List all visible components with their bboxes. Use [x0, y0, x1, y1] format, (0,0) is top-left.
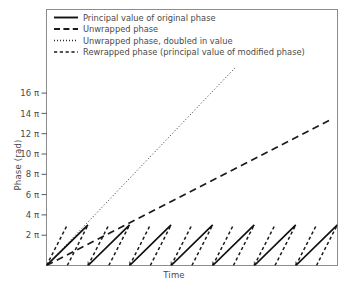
phase-unwrapping-chart: 16 π 14 π 12 π 10 π 8 π 6 π 4 π 2 π: [0, 0, 348, 288]
legend-label-unwrapped: Unwrapped phase: [83, 24, 158, 34]
ytick-label: 8 π: [26, 169, 39, 179]
ytick-label: 10 π: [20, 149, 39, 159]
legend-label-principal-value: Principal value of original phase: [83, 13, 216, 23]
chart-legend: Principal value of original phase Unwrap…: [54, 13, 305, 58]
series-principal-value: [47, 225, 338, 266]
y-axis-ticks: [42, 93, 47, 235]
ytick-label: 14 π: [20, 109, 39, 119]
ytick-label: 6 π: [26, 190, 39, 200]
ytick-label: 4 π: [26, 210, 39, 220]
x-axis-title: Time: [0, 270, 348, 280]
legend-label-unwrapped-doubled: Unwrapped phase, doubled in value: [83, 36, 233, 46]
ytick-label: 2 π: [26, 230, 39, 240]
series-unwrapped-doubled: [47, 67, 236, 266]
ytick-label: 16 π: [20, 88, 39, 98]
chart-canvas: 16 π 14 π 12 π 10 π 8 π 6 π 4 π 2 π: [0, 0, 348, 288]
ytick-label: 12 π: [20, 129, 39, 139]
legend-label-rewrapped: Rewrapped phase (principal value of modi…: [83, 47, 305, 57]
y-axis-tick-labels: 16 π 14 π 12 π 10 π 8 π 6 π 4 π 2 π: [20, 88, 39, 240]
series-unwrapped: [47, 119, 334, 266]
y-axis-title: Phase (rad): [13, 125, 23, 205]
